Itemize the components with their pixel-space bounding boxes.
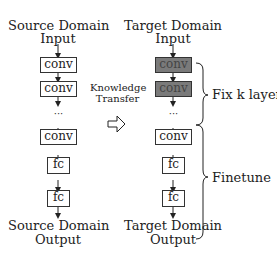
finetune-label: Finetune	[212, 170, 271, 185]
source-conv-2: conv	[40, 81, 77, 97]
target-conv-3: conv	[155, 129, 192, 145]
fix-k-layers-label: Fix k layers	[212, 87, 277, 102]
knowledge-label: Knowledge	[90, 82, 145, 93]
source-fc-1: fc	[47, 157, 70, 174]
source-conv-1: conv	[40, 57, 77, 73]
transfer-label: Transfer	[90, 93, 145, 104]
target-output-title: Target Domain	[123, 218, 223, 233]
target-output-label: Output	[123, 232, 223, 247]
source-fc-2: fc	[47, 190, 70, 207]
transfer-arrow-icon	[108, 116, 125, 132]
source-output-label: Output	[8, 232, 108, 247]
source-input-label: Input	[8, 31, 108, 46]
source-output-title: Source Domain	[8, 218, 108, 233]
target-input-label: Input	[123, 31, 223, 46]
target-ellipsis: ···	[155, 108, 192, 119]
source-conv-3: conv	[40, 129, 77, 145]
target-conv-2-fixed: conv	[155, 81, 192, 97]
fix-brace	[196, 63, 208, 125]
target-conv-1-fixed: conv	[155, 57, 192, 73]
target-fc-2: fc	[162, 190, 185, 207]
source-ellipsis: ···	[40, 108, 77, 119]
target-fc-1: fc	[162, 157, 185, 174]
